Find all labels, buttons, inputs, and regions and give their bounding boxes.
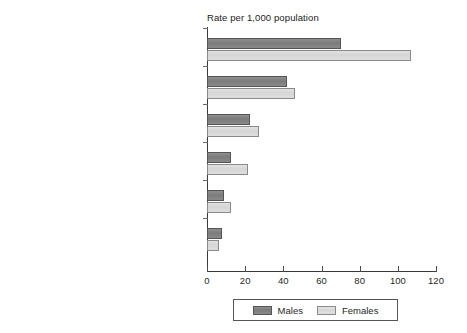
bar-females — [207, 50, 411, 61]
x-axis-tick-label: 40 — [263, 275, 303, 286]
bar-group — [207, 148, 436, 186]
y-axis-tick — [203, 218, 208, 219]
x-axis-tick-label: 100 — [378, 275, 418, 286]
legend-swatch-males-icon — [253, 306, 272, 315]
x-axis-tick — [207, 266, 208, 272]
bar-group — [207, 186, 436, 224]
bar-group — [207, 224, 436, 262]
bar-males — [207, 228, 222, 239]
bar-males — [207, 152, 231, 163]
bar-group — [207, 34, 436, 72]
bar-males — [207, 38, 341, 49]
chart-legend: Males Females — [233, 299, 398, 321]
y-axis-tick-top — [203, 28, 208, 29]
x-axis-tick — [436, 266, 437, 272]
y-axis-tick — [203, 180, 208, 181]
bar-group — [207, 110, 436, 148]
bar-females — [207, 88, 295, 99]
y-axis-tick — [203, 66, 208, 67]
bar-males — [207, 114, 250, 125]
bar-group — [207, 72, 436, 110]
bar-females — [207, 164, 248, 175]
bar-chart: Rate per 1,000 population Mixed anxiety … — [0, 0, 467, 333]
x-axis-tick — [245, 266, 246, 272]
x-axis-tick-label: 20 — [225, 275, 265, 286]
x-axis-tick-label: 120 — [416, 275, 456, 286]
x-axis-tick — [283, 266, 284, 272]
x-axis-tick-label: 80 — [340, 275, 380, 286]
x-axis-tick-label: 0 — [187, 275, 227, 286]
bar-males — [207, 76, 287, 87]
y-axis-tick — [203, 142, 208, 143]
plot-area — [207, 30, 436, 271]
chart-title: Rate per 1,000 population — [207, 12, 319, 23]
x-axis-tick — [360, 266, 361, 272]
legend-entry-females[interactable]: Females — [317, 305, 378, 316]
legend-entry-males[interactable]: Males — [253, 305, 303, 316]
x-axis-tick-label: 60 — [302, 275, 342, 286]
bar-females — [207, 126, 259, 137]
x-axis-tick — [322, 266, 323, 272]
x-axis-tick — [398, 266, 399, 272]
y-axis-tick — [203, 104, 208, 105]
legend-label-males: Males — [278, 305, 303, 316]
bar-males — [207, 190, 224, 201]
bar-females — [207, 202, 231, 213]
legend-label-females: Females — [342, 305, 378, 316]
bar-females — [207, 240, 219, 251]
legend-swatch-females-icon — [317, 306, 336, 315]
